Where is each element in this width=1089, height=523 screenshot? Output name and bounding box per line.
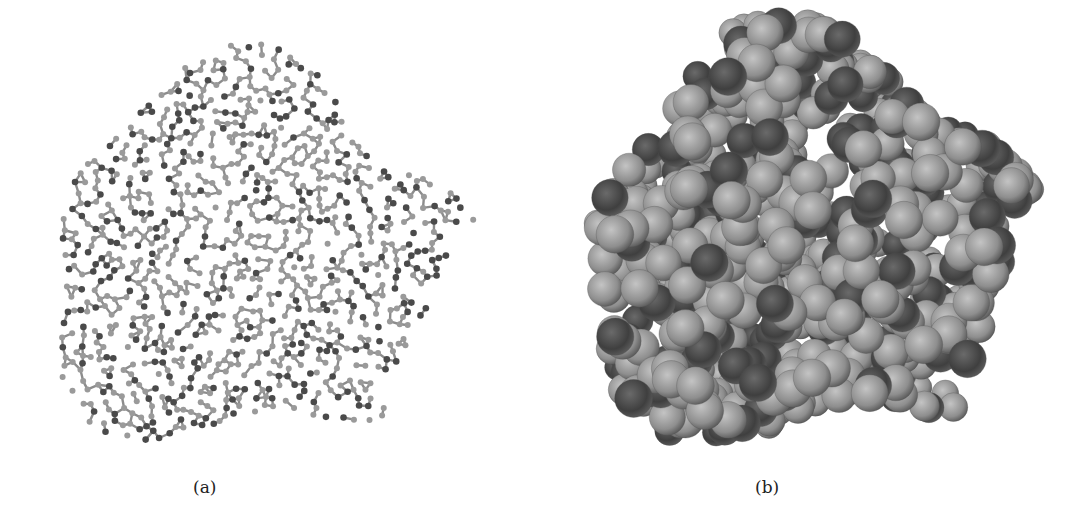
- atom-light: [210, 407, 216, 413]
- atom-light: [316, 185, 322, 191]
- atom-dark: [233, 84, 240, 91]
- atom-light: [222, 175, 228, 181]
- atom-light: [210, 163, 216, 169]
- atom-light: [109, 208, 115, 214]
- atom-light: [262, 86, 268, 92]
- atom-light: [420, 205, 426, 211]
- atom-dark: [110, 355, 117, 362]
- atom-light: [255, 256, 261, 262]
- atom-light: [197, 158, 203, 164]
- atom-light: [208, 97, 214, 103]
- sphere-dark: [828, 67, 864, 103]
- atom-light: [311, 148, 317, 154]
- atom-dark: [125, 275, 132, 282]
- atom-light: [367, 261, 373, 267]
- atom-dark: [397, 181, 404, 188]
- atom-light: [334, 265, 340, 271]
- atom-light: [156, 371, 162, 377]
- atom-dark: [96, 333, 103, 340]
- atom-light: [387, 307, 393, 313]
- atom-dark: [344, 388, 351, 395]
- atom-light: [97, 296, 103, 302]
- atom-light: [448, 190, 454, 196]
- atom-light: [278, 267, 284, 273]
- atom-light: [239, 349, 245, 355]
- atom-light: [257, 308, 263, 314]
- atom-dark: [276, 373, 283, 380]
- atom-dark: [113, 156, 120, 163]
- atom-light: [109, 312, 115, 318]
- atom-dark: [356, 402, 363, 409]
- atom-dark: [248, 65, 255, 72]
- atom-light: [62, 252, 68, 258]
- atom-light: [81, 401, 87, 407]
- atom-light: [95, 382, 101, 388]
- atom-light: [227, 286, 233, 292]
- sphere-light: [837, 225, 874, 262]
- atom-light: [232, 131, 238, 137]
- atom-dark: [271, 112, 278, 119]
- atom-light: [160, 131, 166, 137]
- atom-light: [195, 173, 201, 179]
- atom-light: [397, 321, 403, 327]
- atom-light: [170, 252, 176, 258]
- atom-dark: [392, 285, 399, 292]
- atom-light: [308, 281, 314, 287]
- atom-light: [359, 261, 365, 267]
- atom-light: [162, 342, 168, 348]
- sphere-light: [826, 299, 863, 336]
- atom-dark: [80, 324, 87, 331]
- atom-light: [305, 153, 311, 159]
- atom-light: [291, 264, 297, 270]
- atom-light: [257, 97, 263, 103]
- atom-light: [366, 165, 372, 171]
- atom-light: [237, 268, 243, 274]
- atom-dark: [156, 435, 163, 442]
- atom-dark: [291, 105, 298, 112]
- atom-light: [157, 121, 163, 127]
- atom-light: [316, 356, 322, 362]
- atom-dark: [253, 270, 260, 277]
- atom-dark: [408, 252, 415, 259]
- atom-light: [193, 81, 199, 87]
- atom-dark: [241, 195, 248, 202]
- atom-light: [227, 260, 233, 266]
- atom-light: [390, 348, 396, 354]
- atom-dark: [183, 77, 190, 84]
- atom-light: [180, 102, 186, 108]
- atom-light: [260, 387, 266, 393]
- atom-light: [382, 247, 388, 253]
- sphere-dark: [824, 21, 860, 57]
- atom-dark: [247, 324, 254, 331]
- atom-light: [185, 322, 191, 328]
- atom-light: [142, 276, 148, 282]
- atom-light: [129, 410, 135, 416]
- atom-light: [205, 192, 211, 198]
- atom-light: [116, 256, 122, 262]
- atom-light: [316, 141, 322, 147]
- atom-light: [287, 54, 293, 60]
- atom-light: [422, 220, 428, 226]
- atom-dark: [129, 322, 136, 329]
- atom-light: [230, 91, 236, 97]
- atom-light: [132, 162, 138, 168]
- atom-light: [327, 321, 333, 327]
- atom-dark: [162, 218, 169, 225]
- atom-light: [195, 283, 201, 289]
- atom-dark: [178, 416, 185, 423]
- space-filling-model: [545, 0, 1089, 523]
- atom-light: [241, 154, 247, 160]
- atom-light: [264, 266, 270, 272]
- atom-light: [192, 206, 198, 212]
- atom-light: [328, 387, 334, 393]
- atom-light: [235, 48, 241, 54]
- atom-dark: [170, 399, 177, 406]
- atom-light: [128, 125, 134, 131]
- atom-light: [400, 314, 406, 320]
- atom-light: [125, 344, 131, 350]
- atom-light: [61, 216, 67, 222]
- atom-dark: [325, 117, 332, 124]
- atom-dark: [106, 383, 113, 390]
- atom-light: [138, 129, 144, 135]
- atom-dark: [445, 198, 452, 205]
